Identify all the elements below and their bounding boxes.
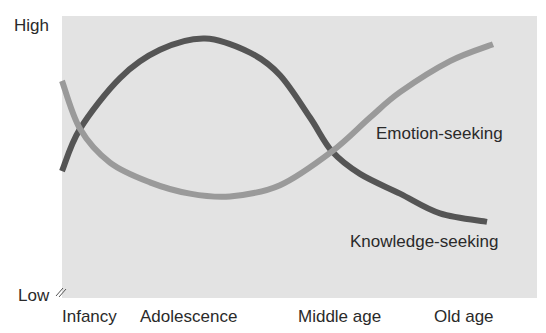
plot-area [62, 16, 537, 298]
emotion-seeking-label: Emotion-seeking [376, 124, 503, 144]
x-tick-old-age: Old age [434, 307, 494, 327]
chart [0, 0, 546, 333]
knowledge-seeking-label: Knowledge-seeking [350, 232, 498, 252]
x-tick-adolescence: Adolescence [140, 307, 237, 327]
x-tick-middle-age: Middle age [298, 307, 381, 327]
y-tick-low: Low [18, 286, 49, 306]
y-tick-high: High [14, 16, 49, 36]
x-tick-infancy: Infancy [62, 307, 117, 327]
